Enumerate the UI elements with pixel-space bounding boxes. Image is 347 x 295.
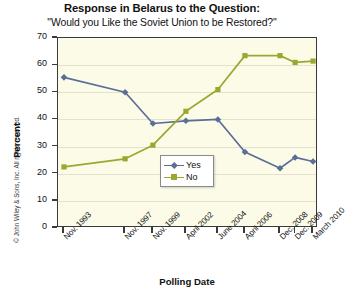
legend-label: Yes: [184, 160, 201, 170]
y-tick-mark: [52, 36, 57, 37]
y-tick-label: 70: [23, 31, 47, 41]
y-tick-label: 0: [23, 221, 47, 231]
plot-area: [57, 37, 317, 227]
y-tick-mark: [52, 199, 57, 200]
data-point-no: [215, 87, 220, 92]
chart-subtitle: "Would you Like the Soviet Union to be R…: [0, 17, 324, 28]
legend-swatch-diamond-icon: [164, 160, 184, 170]
y-tick-label: 20: [23, 167, 47, 177]
data-point-no: [122, 156, 127, 161]
y-tick-label: 50: [23, 85, 47, 95]
chart-title: Response in Belarus to the Question:: [0, 2, 324, 14]
legend-label: No: [184, 172, 198, 182]
data-point-no: [61, 164, 66, 169]
y-tick-label: 10: [23, 194, 47, 204]
y-tick-mark: [52, 145, 57, 146]
series-plot: [58, 38, 318, 228]
data-point-no: [242, 53, 247, 58]
y-tick-mark: [52, 91, 57, 92]
y-tick-mark: [52, 118, 57, 119]
data-point-no: [183, 109, 188, 114]
legend-swatch-square-icon: [164, 172, 184, 182]
y-tick-mark: [52, 172, 57, 173]
chart-legend: YesNo: [160, 155, 214, 187]
data-point-no: [310, 58, 315, 63]
y-axis-label: Percent: [11, 111, 22, 171]
data-point-yes: [61, 74, 68, 81]
y-tick-mark: [52, 226, 57, 227]
x-axis-label: Polling Date: [50, 276, 324, 287]
y-tick-label: 60: [23, 58, 47, 68]
data-point-no: [277, 53, 282, 58]
y-tick-mark: [52, 64, 57, 65]
data-point-yes: [183, 117, 190, 124]
legend-item-no[interactable]: No: [164, 171, 209, 183]
y-tick-label: 30: [23, 140, 47, 150]
legend-item-yes[interactable]: Yes: [164, 159, 209, 171]
data-point-no: [150, 143, 155, 148]
data-point-yes: [310, 158, 317, 165]
data-point-no: [293, 60, 298, 65]
y-tick-label: 40: [23, 112, 47, 122]
